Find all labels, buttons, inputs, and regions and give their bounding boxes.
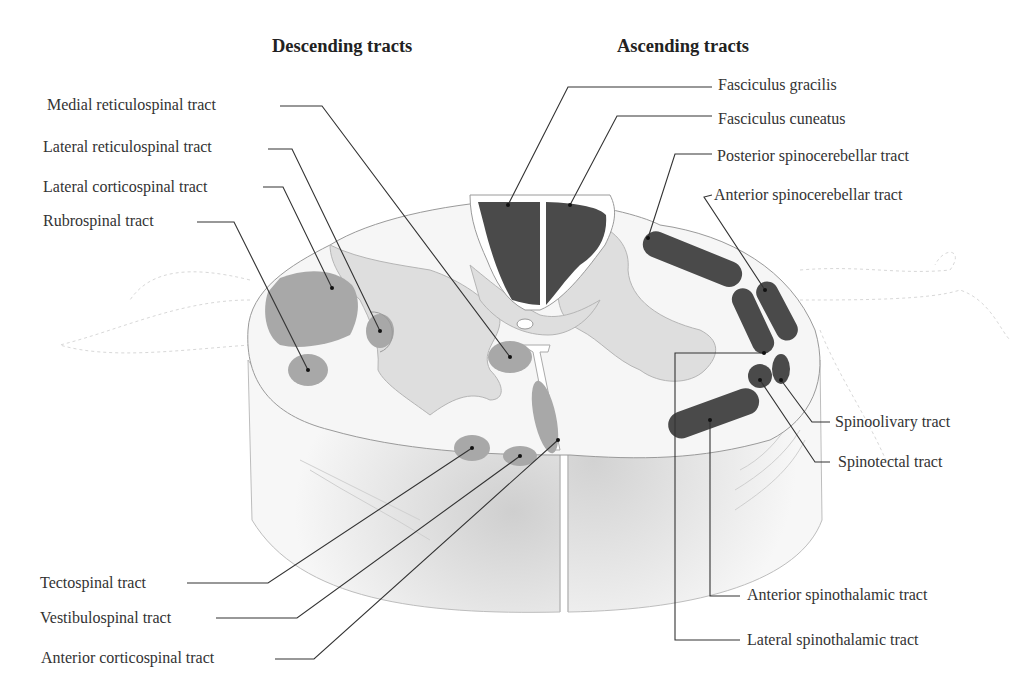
label-lateral-spinothalamic-tract: Lateral spinothalamic tract bbox=[747, 631, 918, 649]
label-lateral-reticulospinal-tract: Lateral reticulospinal tract bbox=[43, 138, 212, 156]
label-rubrospinal-tract: Rubrospinal tract bbox=[43, 212, 154, 230]
label-vestibulospinal-tract: Vestibulospinal tract bbox=[40, 609, 171, 627]
label-spinoolivary-tract: Spinoolivary tract bbox=[835, 413, 950, 431]
spinotectal-shape bbox=[748, 364, 772, 388]
lateral-corticospinal-shape bbox=[265, 271, 358, 347]
label-fasciculus-cuneatus: Fasciculus cuneatus bbox=[718, 110, 846, 128]
label-anterior-spinothalamic-tract: Anterior spinothalamic tract bbox=[747, 586, 927, 604]
label-fasciculus-gracilis: Fasciculus gracilis bbox=[718, 76, 837, 94]
label-posterior-spinocerebellar-tract: Posterior spinocerebellar tract bbox=[717, 147, 909, 165]
label-tectospinal-tract: Tectospinal tract bbox=[40, 574, 146, 592]
central-canal bbox=[517, 319, 533, 329]
heading-ascending-tracts: Ascending tracts bbox=[617, 36, 749, 57]
label-spinotectal-tract: Spinotectal tract bbox=[838, 453, 942, 471]
label-anterior-corticospinal-tract: Anterior corticospinal tract bbox=[41, 649, 214, 667]
spinal-cord-tracts-diagram: Descending tracts Ascending tracts Media… bbox=[0, 0, 1020, 697]
label-anterior-spinocerebellar-tract: Anterior spinocerebellar tract bbox=[714, 186, 902, 204]
heading-descending-tracts: Descending tracts bbox=[272, 36, 412, 57]
label-medial-reticulospinal-tract: Medial reticulospinal tract bbox=[47, 96, 216, 114]
label-lateral-corticospinal-tract: Lateral corticospinal tract bbox=[43, 178, 207, 196]
